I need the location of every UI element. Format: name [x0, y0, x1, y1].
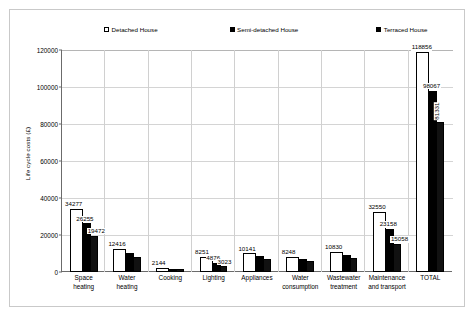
chart-legend: Detached House Semi-detached House Terra…	[60, 24, 460, 36]
bar-group: 10830	[322, 50, 365, 272]
bar-group: 342772625519472	[62, 50, 105, 272]
data-label: 12416	[108, 241, 126, 247]
x-axis-label: Wastewatertreatment	[322, 274, 365, 304]
x-axis-label: Spaceheating	[62, 274, 105, 304]
data-label: 23158	[379, 221, 397, 227]
x-axis-label: TOTAL	[409, 274, 452, 304]
bars: 325502315815058	[365, 50, 408, 272]
bar-group: 2144	[149, 50, 192, 272]
bars: 8248	[279, 50, 322, 272]
data-label: 19472	[87, 228, 105, 234]
x-axis-label: Appliances	[235, 274, 278, 304]
bar[interactable]	[113, 249, 126, 272]
data-label: 118856	[411, 44, 432, 50]
data-label: 2144	[151, 260, 166, 266]
legend-label-semi-detached: Semi-detached House	[237, 27, 298, 33]
bar[interactable]	[156, 268, 169, 272]
x-axis-label: Waterconsumption	[279, 274, 322, 304]
x-axis-labels: SpaceheatingWaterheatingCookingLightingA…	[62, 274, 452, 304]
bars: 10830	[322, 50, 365, 272]
data-label: 3023	[217, 259, 232, 265]
legend-item-semi-detached-house: Semi-detached House	[230, 27, 299, 33]
legend-item-detached-house: Detached House	[104, 27, 158, 33]
x-axis-label: Lighting	[192, 274, 235, 304]
chart-container: Detached House Semi-detached House Terra…	[0, 0, 474, 316]
bar-group: 1188569806781331	[409, 50, 452, 272]
legend-item-terraced-house: Terraced House	[376, 27, 427, 33]
x-axis-label: Cooking	[149, 274, 192, 304]
x-axis-label: Waterheating	[105, 274, 148, 304]
plot-wrapper: 020000400006000080000100000120000 342772…	[61, 50, 452, 272]
y-axis-title: Life cycle costs (£)	[24, 99, 31, 209]
bar[interactable]	[330, 252, 343, 272]
bar[interactable]	[286, 257, 299, 272]
bar-group: 12416	[105, 50, 148, 272]
data-label: 98067	[422, 83, 440, 89]
legend-label-terraced: Terraced House	[384, 27, 428, 33]
bar-groups: 3427726255194721241621448251487630231014…	[62, 50, 452, 272]
bar-group: 325502315815058	[365, 50, 408, 272]
bars: 10141	[235, 50, 278, 272]
x-axis-label: Maintenanceand transport	[365, 274, 408, 304]
bars: 2144	[149, 50, 192, 272]
bar-group: 10141	[235, 50, 278, 272]
legend-label-detached: Detached House	[112, 27, 158, 33]
data-label: 10141	[238, 246, 256, 252]
bars: 825148763023	[192, 50, 235, 272]
legend-swatch-icon-semi-detached	[230, 27, 235, 32]
data-label: 32550	[368, 204, 386, 210]
data-label: 26255	[76, 216, 94, 222]
bar-group: 825148763023	[192, 50, 235, 272]
bars: 342772625519472	[62, 50, 105, 272]
data-label: 34277	[65, 201, 83, 207]
bar[interactable]	[243, 253, 256, 272]
legend-swatch-icon-terraced	[376, 27, 381, 32]
data-label: 10830	[325, 244, 343, 250]
bars: 1188569806781331	[409, 50, 452, 272]
data-label: 8248	[281, 249, 296, 255]
legend-swatch-icon-detached	[104, 27, 109, 32]
bars: 12416	[105, 50, 148, 272]
data-label: 15058	[390, 236, 408, 242]
data-label: 81331	[434, 102, 440, 120]
bar-group: 8248	[279, 50, 322, 272]
